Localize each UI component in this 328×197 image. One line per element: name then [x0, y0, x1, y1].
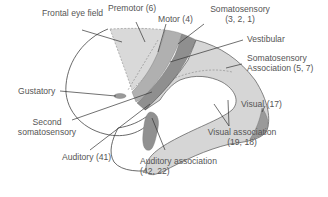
label-second-somatosensory: Second somatosensory [16, 117, 78, 137]
label-motor: Motor (4) [158, 14, 193, 24]
label-visual-association: Visual association (19, 18) [202, 127, 282, 147]
label-somatosensory-assoc-line1: Somatosensory [247, 53, 313, 63]
label-somatosensory-line1: Somatosensory [204, 4, 276, 14]
label-second-somatosensory-line1: Second [16, 117, 78, 127]
label-somatosensory-line2: (3, 2, 1) [204, 14, 276, 24]
leader-gustatory [60, 91, 116, 96]
leader-second-somatosensory [72, 92, 152, 120]
label-second-somatosensory-line2: somatosensory [16, 127, 78, 137]
label-premotor: Premotor (6) [108, 3, 156, 13]
label-auditory-assoc-line1: Auditory association [140, 156, 217, 166]
label-somatosensory-assoc-line2: Association (5, 7) [247, 63, 313, 73]
label-auditory-assoc-line2: (42, 22) [140, 166, 217, 176]
label-auditory-association: Auditory association (42, 22) [140, 156, 217, 176]
brain-diagram: Frontal eye field Premotor (6) Motor (4)… [0, 0, 328, 197]
label-somatosensory-association: Somatosensory Association (5, 7) [247, 53, 313, 73]
label-somatosensory: Somatosensory (3, 2, 1) [204, 4, 276, 24]
label-visual: Visual (17) [241, 99, 282, 109]
label-vestibular: Vestibular [247, 34, 285, 44]
label-frontal-eye-field: Frontal eye field [42, 8, 103, 18]
label-visual-assoc-line2: (19, 18) [202, 137, 282, 147]
label-visual-assoc-line1: Visual association [202, 127, 282, 137]
label-gustatory: Gustatory [18, 86, 55, 96]
label-auditory: Auditory (41) [62, 152, 111, 162]
